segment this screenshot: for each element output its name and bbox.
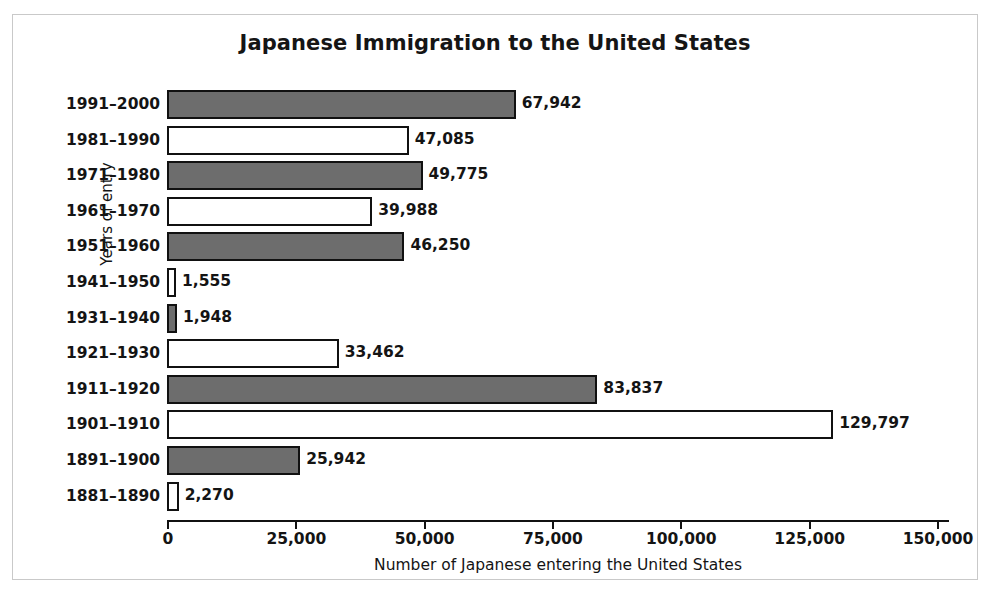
figure-panel: Japanese Immigration to the United State… xyxy=(12,14,978,580)
x-tick-label: 150,000 xyxy=(903,530,974,548)
x-tick-mark xyxy=(552,520,554,529)
x-tick-label: 125,000 xyxy=(774,530,845,548)
bar: 1891–1900 xyxy=(167,446,300,475)
x-tick-label: 100,000 xyxy=(646,530,717,548)
bar-value-label: 67,942 xyxy=(522,89,582,118)
category-label: 1911–1920 xyxy=(66,375,160,404)
x-tick-mark xyxy=(424,520,426,529)
category-label: 1891–1900 xyxy=(66,446,160,475)
bar-value-label: 83,837 xyxy=(603,374,663,403)
bar-value-label: 25,942 xyxy=(306,445,366,474)
bar-value-label: 129,797 xyxy=(839,409,910,438)
bar: 1991–2000 xyxy=(167,90,516,119)
plot-area: 1991–200067,9421981–199047,0851971–19804… xyxy=(167,77,937,504)
bar-value-label: 46,250 xyxy=(410,231,470,260)
x-tick-label: 75,000 xyxy=(523,530,583,548)
bar: 1981–1990 xyxy=(167,126,409,155)
bar: 1931–1940 xyxy=(167,304,177,333)
bar: 1911–1920 xyxy=(167,375,597,404)
bar: 1941–1950 xyxy=(167,268,176,297)
bar-value-label: 39,988 xyxy=(378,196,438,225)
bar-value-label: 2,270 xyxy=(185,481,234,510)
bar-value-label: 49,775 xyxy=(429,160,489,189)
bar: 1901–1910 xyxy=(167,410,833,439)
category-label: 1881–1890 xyxy=(66,482,160,511)
x-tick-mark xyxy=(937,520,939,529)
bar: 1961–1970 xyxy=(167,197,372,226)
x-tick-label: 50,000 xyxy=(395,530,455,548)
x-tick-mark xyxy=(167,520,169,529)
x-tick-mark xyxy=(295,520,297,529)
bar: 1951–1960 xyxy=(167,232,404,261)
y-axis-title: Years of entry xyxy=(98,114,116,314)
bar: 1921–1930 xyxy=(167,339,339,368)
x-tick-label: 25,000 xyxy=(266,530,326,548)
bar-value-label: 33,462 xyxy=(345,338,405,367)
bar: 1971–1980 xyxy=(167,161,423,190)
bar-value-label: 1,948 xyxy=(183,303,232,332)
bar: 1881–1890 xyxy=(167,482,179,511)
x-tick-label: 0 xyxy=(163,530,174,548)
chart-title: Japanese Immigration to the United State… xyxy=(13,31,977,55)
category-label: 1921–1930 xyxy=(66,339,160,368)
bar-value-label: 1,555 xyxy=(182,267,231,296)
x-tick-mark xyxy=(809,520,811,529)
x-tick-mark xyxy=(680,520,682,529)
x-axis-line xyxy=(167,520,949,522)
bar-value-label: 47,085 xyxy=(415,125,475,154)
x-axis-title: Number of Japanese entering the United S… xyxy=(167,556,949,574)
category-label: 1901–1910 xyxy=(66,410,160,439)
